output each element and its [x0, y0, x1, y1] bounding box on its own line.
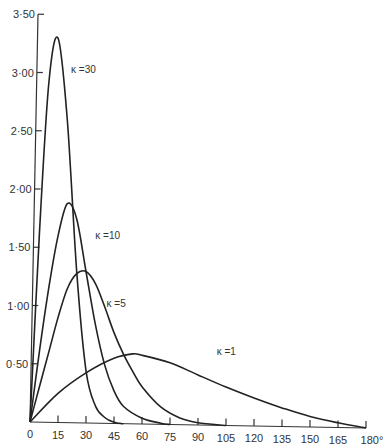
- y-tick-label: 0·50: [6, 358, 28, 370]
- x-tick-label: 105: [217, 432, 235, 444]
- curve-labels: κ =30κ =10κ =5κ =1: [71, 64, 236, 357]
- x-tick-label: 150: [301, 433, 319, 445]
- x-tick-label: 15: [52, 429, 64, 441]
- y-tick-label: 3·50: [13, 8, 35, 20]
- curve-5: [30, 271, 226, 426]
- curve-label: κ =5: [107, 298, 127, 309]
- x-tick-label: 120: [245, 432, 263, 444]
- x-tick-label: 0: [27, 428, 33, 440]
- chart-canvas: 0·501·001·502·002·503·003·50015304560759…: [0, 0, 391, 448]
- y-tick-label: 1·00: [7, 300, 29, 312]
- x-tick-label: 180°: [361, 434, 384, 446]
- curve-1: [30, 354, 366, 428]
- curve-label: κ =30: [71, 64, 96, 75]
- x-tick-label: 60: [136, 430, 148, 442]
- y-tick-label: 2·00: [10, 183, 32, 195]
- x-tick-label: 75: [164, 431, 176, 443]
- curve-label: κ =10: [95, 230, 120, 241]
- y-tick-label: 2·50: [11, 125, 33, 137]
- x-tick-label: 135: [273, 433, 291, 445]
- x-tick-label: 30: [80, 429, 92, 441]
- curve-label: κ =1: [217, 346, 237, 357]
- y-tick-label: 1·50: [8, 241, 30, 253]
- x-tick-label: 90: [192, 431, 204, 443]
- y-tick-label: 3·00: [12, 67, 34, 79]
- x-tick-label: 45: [108, 430, 120, 442]
- x-tick-label: 165: [329, 434, 347, 446]
- curves: [30, 37, 366, 428]
- axes: [30, 14, 366, 428]
